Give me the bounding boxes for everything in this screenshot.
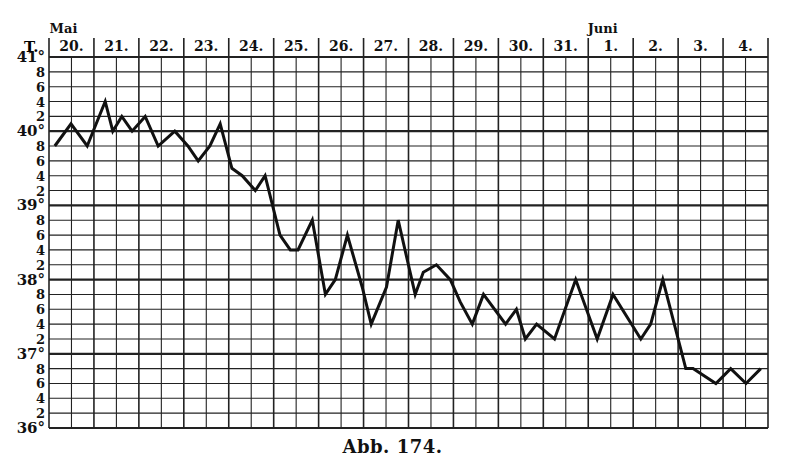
day-label: 29. <box>464 38 488 54</box>
y-axis-labels: 41°864240°864239°864238°864237°864236° <box>17 48 45 437</box>
y-tick-label: 8 <box>36 362 45 377</box>
y-tick-label: 8 <box>36 139 45 154</box>
y-tick-label: 6 <box>36 228 45 243</box>
temperature-chart: 20.21.22.23.24.25.26.27.28.29.30.31.1.2.… <box>0 0 785 468</box>
day-label: 1. <box>603 38 618 54</box>
month-labels: MaiJuni <box>50 21 618 36</box>
y-tick-label: 36° <box>17 419 45 437</box>
y-tick-label: 4 <box>36 243 45 258</box>
day-label: 30. <box>509 38 533 54</box>
y-tick-label: 6 <box>36 154 45 169</box>
y-tick-label: 8 <box>36 287 45 302</box>
day-label: 28. <box>419 38 443 54</box>
day-label: 26. <box>329 38 353 54</box>
day-label: 2. <box>648 38 663 54</box>
grid-major-lines <box>49 57 768 428</box>
day-label: 24. <box>239 38 263 54</box>
y-tick-label: 8 <box>36 213 45 228</box>
day-label: 21. <box>104 38 128 54</box>
y-tick-label: 8 <box>36 65 45 80</box>
month-label: Mai <box>50 21 78 36</box>
day-label: 4. <box>738 38 753 54</box>
day-label: 3. <box>693 38 708 54</box>
y-tick-label: 39° <box>17 196 45 214</box>
y-tick-label: 37° <box>17 345 45 363</box>
day-label: 23. <box>194 38 218 54</box>
y-tick-label: 40° <box>17 122 45 140</box>
month-label: Juni <box>587 21 618 36</box>
y-tick-label: 6 <box>36 80 45 95</box>
day-label: 22. <box>149 38 173 54</box>
y-tick-label: 38° <box>17 271 45 289</box>
day-header: 20.21.22.23.24.25.26.27.28.29.30.31.1.2.… <box>49 38 768 57</box>
day-label: 31. <box>554 38 578 54</box>
y-tick-label: 4 <box>36 169 45 184</box>
y-tick-label: 4 <box>36 317 45 332</box>
y-tick-label: 6 <box>36 302 45 317</box>
y-tick-label: 4 <box>36 95 45 110</box>
day-label: 20. <box>59 38 83 54</box>
y-axis-title: T. <box>24 38 38 56</box>
y-tick-label: 6 <box>36 376 45 391</box>
day-label: 27. <box>374 38 398 54</box>
day-label: 25. <box>284 38 308 54</box>
figure-caption: Abb. 174. <box>0 436 785 457</box>
y-tick-label: 4 <box>36 391 45 406</box>
